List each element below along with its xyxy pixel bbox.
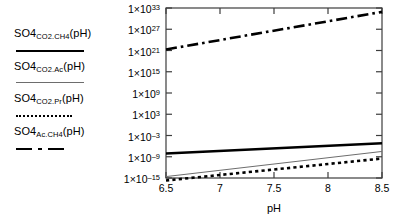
y-tick-label-5: 1×103 bbox=[114, 108, 160, 121]
y-tick-label-1: 1×1027 bbox=[114, 23, 160, 36]
y-tick-mantissa: 1×10 bbox=[132, 110, 156, 122]
y-tick-mantissa: 1×10 bbox=[128, 25, 152, 37]
y-tick-exponent: –15 bbox=[147, 173, 160, 182]
data-curves bbox=[166, 12, 382, 181]
y-tick-label-3: 1×1015 bbox=[114, 66, 160, 79]
y-tick-exponent: 33 bbox=[152, 3, 160, 12]
y-tick-mantissa: 1×10 bbox=[128, 67, 152, 79]
y-tick-exponent: 15 bbox=[152, 67, 160, 76]
x-tick-label-1: 7 bbox=[205, 183, 235, 194]
y-tick-exponent: 27 bbox=[152, 24, 160, 33]
y-tick-exponent: 3 bbox=[156, 109, 160, 118]
y-tick-mantissa: 1×10 bbox=[132, 88, 156, 100]
y-tick-exponent: 21 bbox=[152, 46, 160, 55]
x-tick-label-0: 6.5 bbox=[151, 183, 181, 194]
x-tick-label-3: 8 bbox=[313, 183, 343, 194]
figure: SO4CO2.CH4(pH) SO4CO2.Ac(pH) SO4CO2.Pr(p… bbox=[0, 0, 395, 224]
x-tick-label-4: 8.5 bbox=[367, 183, 395, 194]
y-tick-exponent: –9 bbox=[152, 152, 160, 161]
y-tick-mantissa: 1×10 bbox=[128, 46, 152, 58]
y-tick-exponent: –3 bbox=[152, 131, 160, 140]
y-tick-mantissa: 1×10 bbox=[128, 3, 152, 15]
curve-ac-ch4 bbox=[166, 12, 382, 50]
x-tick-label-2: 7.5 bbox=[259, 183, 289, 194]
y-tick-label-7: 1×10–9 bbox=[114, 151, 160, 164]
y-tick-label-6: 1×10–3 bbox=[114, 130, 160, 143]
y-tick-exponent: 9 bbox=[156, 88, 160, 97]
y-tick-label-0: 1×1033 bbox=[114, 2, 160, 15]
y-tick-mantissa: 1×10 bbox=[124, 173, 148, 185]
curve-co2-ch4 bbox=[166, 143, 382, 153]
y-tick-mantissa: 1×10 bbox=[128, 152, 152, 164]
y-tick-label-2: 1×1021 bbox=[114, 45, 160, 58]
y-tick-label-4: 1×109 bbox=[114, 87, 160, 100]
x-axis-title: pH bbox=[254, 203, 294, 214]
y-tick-mantissa: 1×10 bbox=[128, 131, 152, 143]
